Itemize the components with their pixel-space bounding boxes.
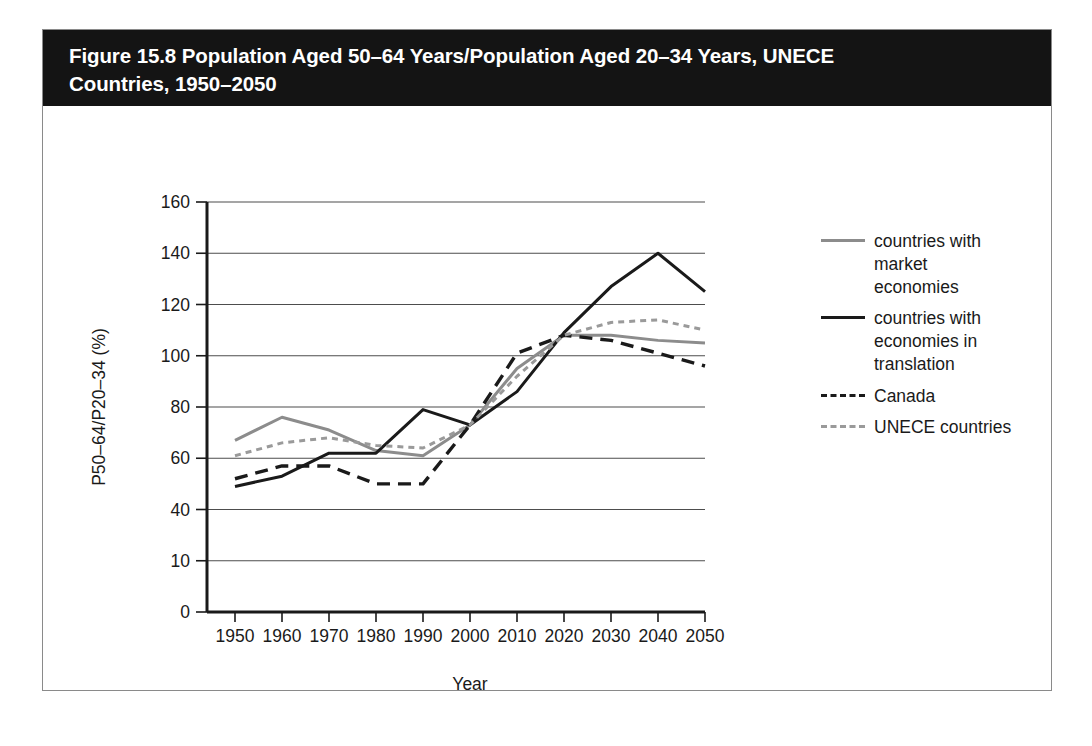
legend-item[interactable]: countries with economies in translation	[821, 307, 1036, 375]
x-axis-tick-label: 1970	[310, 626, 349, 646]
legend-item-label: countries with market economies	[874, 230, 1036, 298]
series-line-2	[235, 335, 705, 484]
y-axis-tick-label: 160	[161, 192, 190, 212]
y-axis-tick-label: 140	[161, 243, 190, 263]
x-axis-tick-label: 2030	[592, 626, 631, 646]
x-axis-tick-label: 1990	[404, 626, 443, 646]
legend-swatch-dash-icon	[821, 385, 865, 404]
legend-line-sample	[821, 394, 865, 397]
x-axis-tick-label: 2000	[451, 626, 490, 646]
series-line-3	[235, 320, 705, 456]
legend-item-label: countries with economies in translation	[874, 307, 1036, 375]
legend-item[interactable]: countries with market economies	[821, 230, 1036, 298]
legend-line-sample	[821, 425, 865, 428]
y-axis-tick-label: 100	[161, 346, 190, 366]
legend-item[interactable]: UNECE countries	[821, 416, 1036, 439]
legend-item[interactable]: Canada	[821, 385, 1036, 408]
legend-swatch-dot-icon	[821, 416, 865, 435]
x-axis-tick-label: 1950	[216, 626, 255, 646]
legend-line-sample	[821, 239, 865, 242]
legend-item-label: UNECE countries	[874, 416, 1011, 439]
legend-item-label: Canada	[874, 385, 935, 408]
y-axis-tick-label: 120	[161, 295, 190, 315]
y-axis-tick-label: 60	[171, 448, 191, 468]
legend-line-sample	[821, 316, 865, 319]
chart-legend: countries with market economiescountries…	[821, 230, 1036, 448]
x-axis-tick-label: 1980	[357, 626, 396, 646]
legend-swatch-solid-icon	[821, 307, 865, 326]
figure-card: Figure 15.8 Population Aged 50–64 Years/…	[42, 29, 1052, 691]
figure-title-bar: Figure 15.8 Population Aged 50–64 Years/…	[43, 30, 1051, 106]
y-axis-tick-label: 10	[171, 551, 191, 571]
y-axis-title: P50–64/P20–34 (%)	[89, 328, 109, 486]
x-axis-title: Year	[452, 674, 488, 691]
figure-title: Figure 15.8 Population Aged 50–64 Years/…	[69, 42, 1021, 97]
y-axis-tick-label: 0	[180, 602, 190, 622]
x-axis-tick-label: 2020	[545, 626, 584, 646]
legend-swatch-solid-icon	[821, 230, 865, 249]
y-axis-tick-label: 80	[171, 397, 191, 417]
chart-plot-area: 0104060801001201401601950196019701980199…	[43, 106, 1051, 691]
x-axis-tick-label: 2040	[639, 626, 678, 646]
series-line-0	[235, 335, 705, 455]
x-axis-tick-label: 2050	[686, 626, 725, 646]
x-axis-tick-label: 2010	[498, 626, 537, 646]
x-axis-tick-label: 1960	[263, 626, 302, 646]
series-line-1	[235, 253, 705, 486]
y-axis-tick-label: 40	[171, 500, 191, 520]
